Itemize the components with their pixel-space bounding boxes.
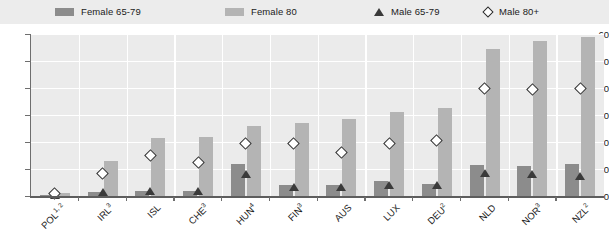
chart-container: Female 65-79 Female 80 Male 65-79 Male 8… [0, 0, 609, 237]
bar-group [509, 34, 557, 196]
x-axis-tick-label: CHE3 [171, 202, 211, 237]
bar-group [222, 34, 270, 196]
legend-label-female-65-79: Female 65-79 [81, 7, 141, 17]
bar-group [31, 34, 79, 196]
bar-group [365, 34, 413, 196]
x-axis-tick-mark [221, 197, 222, 201]
x-axis-tick-mark [173, 197, 174, 201]
x-axis-tick-mark [508, 197, 509, 201]
marker-male-65-79 [575, 172, 585, 180]
legend-item-female-80: Female 80 [225, 0, 297, 24]
plot-area [30, 34, 604, 196]
marker-male-65-79 [480, 169, 490, 177]
x-axis-tick-mark [364, 197, 365, 201]
x-axis-tick-mark [126, 197, 127, 201]
bar-group [270, 34, 318, 196]
x-axis-tick-label: NZL2 [553, 202, 593, 237]
x-axis-tick-mark [78, 197, 79, 201]
square-swatch-light-icon [225, 8, 244, 16]
x-axis-tick-mark [412, 197, 413, 201]
marker-male-65-79 [193, 187, 203, 195]
x-axis-tick-label: AUS [314, 202, 354, 237]
marker-male-65-79 [432, 181, 442, 189]
legend-item-female-65-79: Female 65-79 [55, 0, 141, 24]
x-axis-tick-label: DEU2 [409, 202, 449, 237]
square-swatch-dark-icon [55, 8, 74, 16]
marker-male-65-79 [384, 181, 394, 189]
diamond-marker-icon [482, 6, 493, 17]
bar-group [174, 34, 222, 196]
x-axis-tick-mark [269, 197, 270, 201]
legend-label-male-80-plus: Male 80+ [499, 7, 539, 17]
triangle-marker-icon [374, 8, 384, 16]
legend-label-male-65-79: Male 65-79 [391, 7, 440, 17]
x-axis-tick-label: ISL [123, 202, 163, 237]
bar-female-80 [247, 126, 261, 196]
legend-item-male-65-79: Male 65-79 [374, 0, 440, 24]
marker-male-65-79 [336, 183, 346, 191]
marker-male-65-79 [527, 170, 537, 178]
bar-group [556, 34, 604, 196]
x-axis-tick-mark [460, 197, 461, 201]
chart-legend: Female 65-79 Female 80 Male 65-79 Male 8… [0, 0, 609, 24]
x-axis-tick-mark [555, 197, 556, 201]
x-axis-tick-mark [317, 197, 318, 201]
bar-group [461, 34, 509, 196]
legend-label-female-80: Female 80 [251, 7, 297, 17]
marker-male-65-79 [289, 183, 299, 191]
x-axis-tick-label: HUN4 [218, 202, 258, 237]
x-axis-tick-label: IRL3 [75, 202, 115, 237]
bar-group [318, 34, 366, 196]
x-axis-tick-label: POL1, 2 [27, 202, 67, 237]
marker-male-65-79 [241, 170, 251, 178]
marker-male-65-79 [98, 188, 108, 196]
legend-item-male-80-plus: Male 80+ [484, 0, 539, 24]
x-axis-tick-label: LUX [362, 202, 402, 237]
marker-male-65-79 [145, 187, 155, 195]
bar-female-65-79 [231, 164, 245, 196]
x-axis-tick-label: NOR3 [505, 202, 545, 237]
bar-group [79, 34, 127, 196]
bar-group [127, 34, 175, 196]
x-axis-tick-label: FIN3 [266, 202, 306, 237]
x-axis-tick-label: NLD [457, 202, 497, 237]
bar-female-65-79 [565, 164, 579, 196]
bar-group [413, 34, 461, 196]
